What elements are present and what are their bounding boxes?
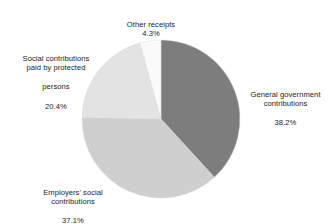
slice-value-general-government: 38.2% [238,118,333,128]
slice-value-employers: 37.1% [14,216,132,224]
slice-label-other-receipts-text: Other receipts [127,20,175,29]
slice-label-employers-social-contributions: Employers' social contributions 37.1% [14,178,132,224]
slice-label-social-contributions-line3: persons [2,82,110,92]
slice-value-other-receipts: 4.3% [96,29,206,39]
pie-chart-figure: Other receipts 4.3% General government c… [0,0,333,224]
slice-label-general-government-line1: General government [250,90,320,99]
slice-label-other-receipts: Other receipts 4.3% [96,10,206,48]
slice-label-general-government-line2: contributions [238,99,333,109]
slice-label-employers-line1: Employers' social [43,188,103,197]
slice-label-employers-line2: contributions [14,197,132,207]
slice-value-social-contributions: 20.4% [2,102,110,112]
slice-label-social-contributions-line2: paid by protected [2,63,110,73]
slice-label-social-contributions-line1: Social contributions [23,54,90,63]
slice-label-social-contributions-protected-persons: Social contributions paid by protected p… [2,44,110,121]
slice-label-general-government: General government contributions 38.2% [238,80,333,138]
